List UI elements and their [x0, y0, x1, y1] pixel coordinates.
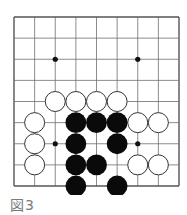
go-board [0, 0, 187, 195]
black-stone-icon [65, 176, 86, 195]
white-stone-icon [107, 92, 127, 112]
black-stone-icon [65, 133, 86, 154]
star-point-icon [53, 141, 58, 146]
black-stone-icon [65, 154, 86, 175]
white-stone-icon [148, 155, 168, 175]
black-stone-icon [107, 112, 128, 133]
white-stone-icon [128, 155, 148, 175]
white-stone-icon [25, 155, 45, 175]
star-point-icon [53, 57, 58, 62]
black-stone-icon [86, 112, 107, 133]
white-stone-icon [25, 113, 45, 133]
white-stone-icon [148, 113, 168, 133]
black-stone-icon [65, 112, 86, 133]
white-stone-icon [25, 134, 45, 154]
white-stone-icon [87, 92, 107, 112]
black-stone-icon [107, 176, 128, 195]
star-point-icon [135, 141, 140, 146]
white-stone-icon [66, 92, 86, 112]
figure-caption: 図3 [10, 197, 35, 213]
black-stone-icon [107, 133, 128, 154]
star-point-icon [135, 57, 140, 62]
black-stone-icon [86, 154, 107, 175]
white-stone-icon [128, 113, 148, 133]
white-stone-icon [45, 92, 65, 112]
